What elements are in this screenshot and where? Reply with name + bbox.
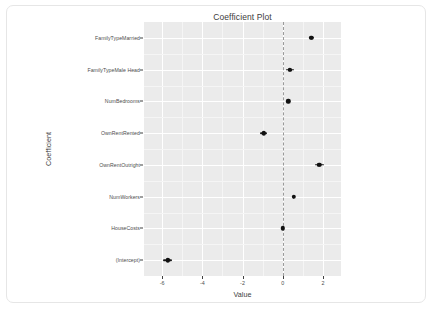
y-axis-tick-mark (140, 228, 143, 229)
grid-line-y-minor (144, 86, 341, 87)
coefficient-point[interactable] (317, 163, 321, 167)
x-axis-tick-mark (323, 276, 324, 279)
x-axis-tick-mark (283, 276, 284, 279)
y-axis-tick-mark (140, 101, 143, 102)
grid-line-y (144, 197, 341, 198)
x-axis-tick-label: -6 (160, 280, 165, 286)
grid-line-y-minor (144, 244, 341, 245)
grid-line-y (144, 133, 341, 134)
y-axis-tick-labels: FamilyTypeMarriedFamilyTypeMale HeadNumB… (62, 22, 140, 276)
y-axis-tick-label: FamilyTypeMarried (95, 35, 140, 41)
grid-line-y-minor (144, 149, 341, 150)
coefficient-point[interactable] (281, 226, 285, 230)
coefficient-point[interactable] (292, 194, 296, 198)
y-axis-tick-label: FamilyTypeMale Head (87, 67, 140, 73)
coefficient-plot: Coefficient Plot FamilyTypeMarriedFamily… (0, 0, 434, 311)
y-axis-tick-label: (Intercept) (116, 257, 140, 263)
y-axis-tick-mark (140, 133, 143, 134)
y-axis-tick-mark (140, 164, 143, 165)
grid-line-y-minor (144, 54, 341, 55)
grid-line-y-minor (144, 181, 341, 182)
x-axis-tick-mark (162, 276, 163, 279)
page-title: Coefficient Plot (144, 12, 341, 22)
x-axis-tick-mark (202, 276, 203, 279)
x-axis-tick-label: 0 (281, 280, 284, 286)
x-axis-tick-mark (243, 276, 244, 279)
grid-line-y (144, 260, 341, 261)
grid-line-y (144, 70, 341, 71)
y-axis-tick-label: NumWorkers (109, 194, 140, 200)
grid-line-y (144, 228, 341, 229)
coefficient-point[interactable] (288, 67, 292, 71)
y-axis-tick-mark (140, 69, 143, 70)
x-axis-tick-label: 2 (321, 280, 324, 286)
y-axis-tick-label: OwnRentRented (101, 130, 140, 136)
x-axis-tick-label: -2 (240, 280, 245, 286)
coefficient-point[interactable] (309, 36, 313, 40)
y-axis-tick-mark (140, 260, 143, 261)
y-axis-tick-label: HouseCosts (111, 225, 140, 231)
grid-line-y-minor (144, 117, 341, 118)
grid-line-y (144, 165, 341, 166)
plot-panel (144, 22, 341, 276)
y-axis-tick-mark (140, 37, 143, 38)
y-axis-tick-mark (140, 196, 143, 197)
y-axis-tick-label: NumBedrooms (105, 98, 140, 104)
coefficient-point[interactable] (261, 131, 265, 135)
y-axis-title: Coefficient (44, 132, 53, 166)
grid-line-y-minor (144, 213, 341, 214)
x-axis-tick-label: -4 (200, 280, 205, 286)
y-axis-tick-label: OwnRentOutright (99, 162, 140, 168)
coefficient-point[interactable] (166, 258, 170, 262)
screenshot-root: Coefficient Plot FamilyTypeMarriedFamily… (0, 0, 434, 311)
zero-reference-line (283, 22, 284, 276)
grid-line-y (144, 101, 341, 102)
coefficient-point[interactable] (286, 99, 290, 103)
x-axis-title: Value (144, 290, 341, 299)
